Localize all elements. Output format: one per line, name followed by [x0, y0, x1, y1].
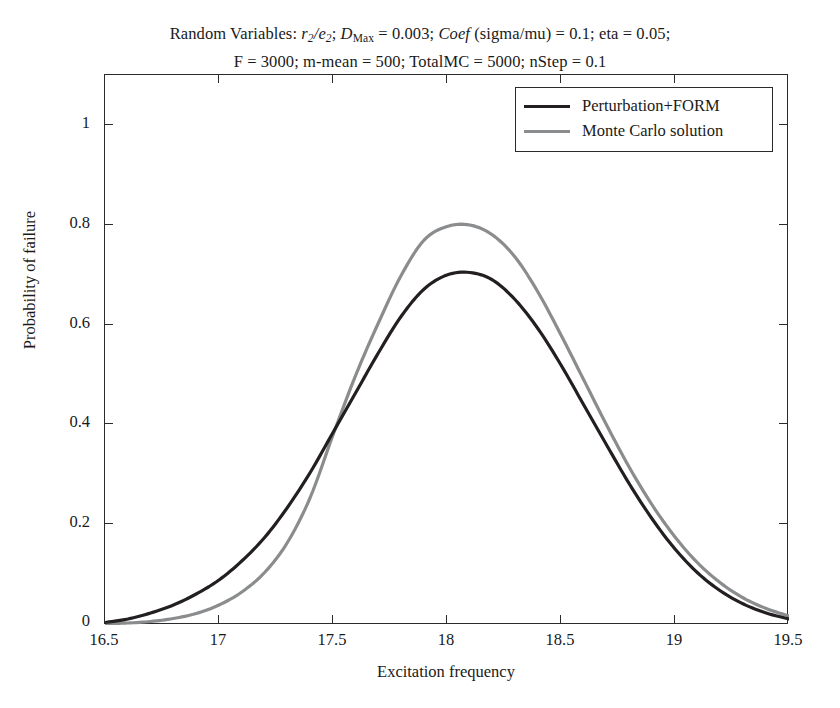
- title-coef-var: Coef: [438, 24, 470, 43]
- xtick-label-19: 19: [639, 630, 709, 650]
- plot-area: [104, 74, 788, 624]
- chart-title: Random Variables: r2/e2; DMax = 0.003; C…: [0, 22, 840, 73]
- xtick-mark-top-17: [218, 74, 219, 83]
- line-swatch-icon-monte-carlo: [524, 130, 570, 133]
- legend-item-monte-carlo: Monte Carlo solution: [524, 119, 764, 144]
- ytick-mark-0.2: [104, 523, 113, 524]
- title-d-var: D: [341, 24, 353, 43]
- xtick-label-17: 17: [183, 630, 253, 650]
- xtick-label-16.5: 16.5: [69, 630, 139, 650]
- legend-box: Perturbation+FORM Monte Carlo solution: [515, 87, 773, 152]
- xtick-mark-top-18.5: [560, 74, 561, 83]
- legend-label-monte-carlo: Monte Carlo solution: [582, 123, 723, 140]
- xtick-label-19.5: 19.5: [753, 630, 823, 650]
- title-d-sub: Max: [353, 32, 374, 44]
- xtick-mark-top-19: [674, 74, 675, 83]
- xtick-mark-17: [218, 615, 219, 624]
- xtick-label-17.5: 17.5: [297, 630, 367, 650]
- ytick-label-0.2: 0.2: [26, 512, 90, 532]
- xtick-label-18: 18: [411, 630, 481, 650]
- title-d-value: = 0.003;: [374, 24, 438, 43]
- xtick-mark-19: [674, 615, 675, 624]
- ytick-mark-right-0.2: [779, 523, 788, 524]
- xtick-label-18.5: 18.5: [525, 630, 595, 650]
- title-coef-args: (sigma/mu) = 0.1; eta = 0.05;: [470, 24, 670, 43]
- xtick-mark-17.5: [332, 615, 333, 624]
- ytick-mark-right-1: [779, 124, 788, 125]
- title-prefix: Random Variables:: [170, 24, 302, 43]
- legend-label-perturbation-form: Perturbation+FORM: [582, 98, 720, 115]
- ytick-label-0: 0: [26, 611, 90, 631]
- title-separator-1: ;: [332, 24, 341, 43]
- ytick-mark-right-0.8: [779, 224, 788, 225]
- xtick-mark-18.5: [560, 615, 561, 624]
- ytick-mark-right-0.4: [779, 423, 788, 424]
- xtick-mark-top-18: [446, 74, 447, 83]
- ytick-mark-1: [104, 124, 113, 125]
- line-swatch-icon-perturbation-form: [524, 105, 570, 108]
- figure-canvas: Random Variables: r2/e2; DMax = 0.003; C…: [0, 0, 840, 708]
- chart-title-line-1: Random Variables: r2/e2; DMax = 0.003; C…: [0, 22, 840, 50]
- y-axis-label: Probability of failure: [20, 50, 40, 510]
- ytick-mark-0.8: [104, 224, 113, 225]
- series-line-perturbation-form: [105, 272, 789, 622]
- legend-item-perturbation-form: Perturbation+FORM: [524, 94, 764, 119]
- ytick-mark-0: [104, 622, 113, 623]
- ytick-mark-0.4: [104, 423, 113, 424]
- chart-title-line-2: F = 3000; m-mean = 500; TotalMC = 5000; …: [0, 50, 840, 73]
- ytick-mark-right-0.6: [779, 324, 788, 325]
- ytick-mark-0.6: [104, 324, 113, 325]
- xtick-mark-18: [446, 615, 447, 624]
- title-e-var: e: [318, 24, 325, 43]
- x-axis-label: Excitation frequency: [104, 662, 788, 682]
- plot-curves: [105, 75, 789, 625]
- xtick-mark-top-17.5: [332, 74, 333, 83]
